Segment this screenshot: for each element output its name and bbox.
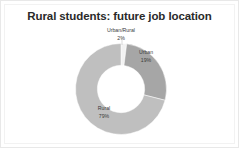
chart-container: Rural students: future job location Urba… — [0, 0, 239, 148]
pie-label-urban-rural-name: Urban/Rural — [89, 27, 153, 35]
pie-label-urban-value: 19% — [129, 57, 163, 65]
donut-chart: Urban/Rural 2% Urban 19% Rural 79% — [1, 1, 239, 148]
donut-svg — [1, 1, 239, 148]
pie-label-urban: Urban 19% — [129, 49, 163, 64]
pie-label-rural-name: Rural — [87, 105, 121, 113]
pie-label-urban-name: Urban — [129, 49, 163, 57]
pie-label-urban-rural: Urban/Rural 2% — [89, 27, 153, 42]
pie-label-rural-value: 79% — [87, 113, 121, 121]
pie-label-rural: Rural 79% — [87, 105, 121, 120]
pie-label-urban-rural-value: 2% — [89, 35, 153, 43]
